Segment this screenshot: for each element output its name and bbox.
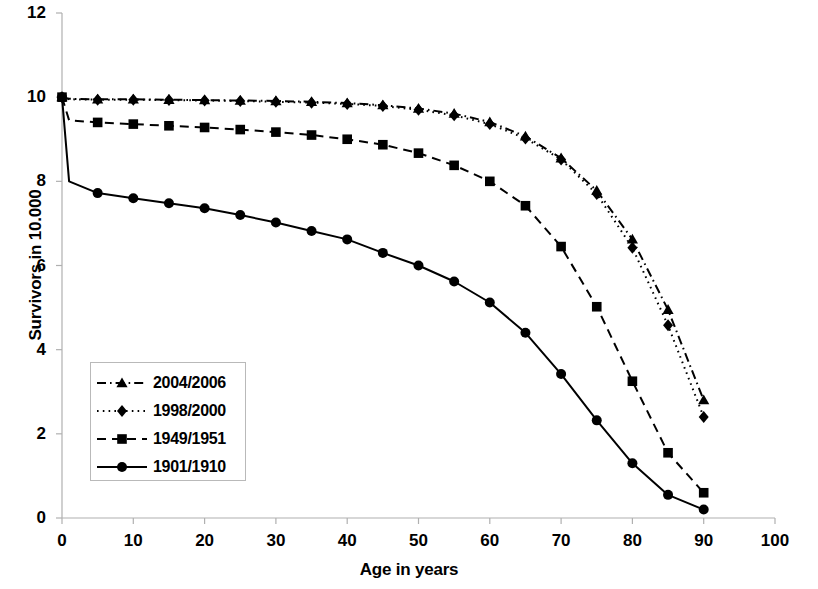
legend-label: 2004/2006 — [153, 374, 226, 392]
square-marker — [91, 428, 153, 450]
legend-label: 1998/2000 — [153, 402, 226, 420]
legend-label: 1949/1951 — [153, 430, 226, 448]
legend-box: 2004/20061998/20001949/19511901/1910 — [90, 362, 246, 481]
diamond-marker — [91, 400, 153, 422]
legend-item-1949-1951[interactable]: 1949/1951 — [91, 424, 247, 453]
triangle-marker — [91, 372, 153, 394]
legend-item-2004-2006[interactable]: 2004/2006 — [91, 368, 247, 397]
legend-label: 1901/1910 — [153, 458, 226, 476]
circle-marker — [91, 456, 153, 478]
plot-area — [0, 0, 818, 589]
legend-item-1998-2000[interactable]: 1998/2000 — [91, 396, 247, 425]
legend-item-1901-1910[interactable]: 1901/1910 — [91, 452, 247, 481]
survival-curve-chart: Survivors in 10.000 Age in years 0246810… — [0, 0, 818, 589]
